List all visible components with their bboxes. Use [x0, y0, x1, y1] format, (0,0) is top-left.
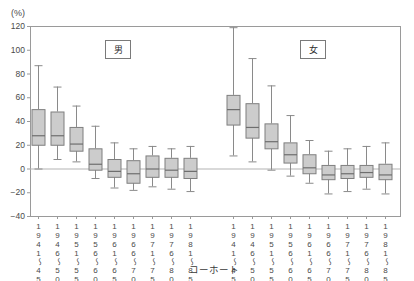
boxplot-item	[165, 148, 178, 189]
box-iqr	[146, 156, 159, 177]
box-iqr	[127, 161, 140, 184]
box-iqr	[108, 160, 121, 178]
boxplot-item	[284, 115, 297, 176]
boxplot-item	[341, 148, 354, 191]
box-iqr	[165, 158, 178, 177]
boxplot-item	[89, 126, 102, 179]
boxplot-item	[379, 142, 392, 194]
boxplot-item	[227, 27, 240, 156]
box-iqr	[51, 112, 64, 145]
boxplot-item	[51, 87, 64, 160]
boxplot-item	[303, 140, 316, 183]
boxplot-item	[146, 146, 159, 187]
box-iqr	[32, 110, 45, 146]
boxplot-item	[246, 58, 259, 162]
plot-canvas	[0, 0, 414, 281]
boxplot-item	[32, 65, 45, 169]
box-iqr	[322, 165, 335, 179]
boxplot-item	[265, 85, 278, 170]
box-iqr	[303, 155, 316, 174]
box-iqr	[70, 127, 83, 151]
plot-frame	[31, 27, 401, 217]
box-iqr	[246, 104, 259, 138]
box-iqr	[341, 165, 354, 178]
boxplot-item	[184, 146, 197, 192]
boxplot-item	[70, 106, 83, 162]
box-iqr	[284, 143, 297, 163]
boxplot-figure: (%) 120100806040200−20−40 1941～451946～50…	[0, 0, 414, 281]
box-iqr	[379, 164, 392, 179]
box-iqr	[184, 158, 197, 178]
box-iqr	[89, 149, 102, 170]
box-iqr	[265, 124, 278, 149]
boxplot-item	[360, 146, 373, 189]
boxplot-item	[322, 151, 335, 194]
boxplot-item	[127, 148, 140, 190]
boxplot-item	[108, 142, 121, 188]
box-iqr	[360, 165, 373, 177]
